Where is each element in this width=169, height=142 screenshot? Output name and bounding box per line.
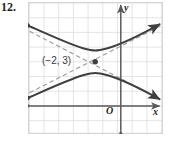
plot-background xyxy=(29,3,163,134)
coordinate-graph xyxy=(28,2,163,134)
center-point-marker xyxy=(93,59,98,64)
x-axis-label: x xyxy=(153,107,158,117)
origin-label: O xyxy=(106,106,113,116)
figure-container: 12. xyxy=(0,0,169,142)
graph-svg xyxy=(28,2,163,134)
center-point-label: (−2, 3) xyxy=(42,55,71,67)
problem-number-label: 12. xyxy=(1,1,16,14)
y-axis-label: y xyxy=(124,3,128,13)
